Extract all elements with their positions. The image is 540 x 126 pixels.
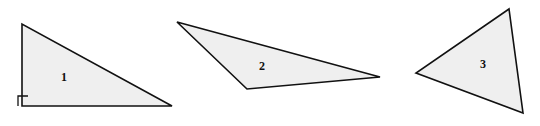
triangle-1-group[interactable]: 1	[18, 24, 172, 106]
triangles-diagram: 1 2 3	[0, 0, 540, 126]
figure-canvas: 1 2 3	[0, 0, 540, 126]
triangle-2-group[interactable]: 2	[177, 22, 380, 89]
triangle-3-group[interactable]: 3	[416, 9, 523, 113]
triangle-3-shape[interactable]	[416, 9, 523, 113]
triangle-1-shape[interactable]	[22, 24, 172, 106]
triangle-3-label: 3	[480, 57, 486, 71]
triangle-1-label: 1	[61, 70, 67, 84]
triangle-2-shape[interactable]	[177, 22, 380, 89]
triangle-2-label: 2	[259, 59, 265, 73]
